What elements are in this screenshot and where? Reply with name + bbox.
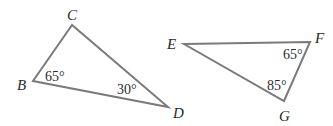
triangles-diagram: C B D 65° 30° E F G 65° 85°	[0, 0, 333, 126]
vertex-label-f: F	[314, 30, 325, 46]
triangle-efg: E F G 65° 85°	[166, 30, 325, 124]
angle-label-d: 30°	[117, 82, 137, 97]
vertex-label-b: B	[17, 77, 26, 93]
angle-label-f: 65°	[283, 47, 303, 62]
angle-label-b: 65°	[45, 69, 65, 84]
vertex-label-d: D	[172, 105, 184, 121]
vertex-label-c: C	[67, 7, 78, 23]
vertex-label-e: E	[166, 36, 176, 52]
vertex-label-g: G	[279, 108, 290, 124]
triangle-bcd: C B D 65° 30°	[17, 7, 184, 121]
triangle-bcd-outline	[33, 25, 168, 107]
angle-label-g: 85°	[267, 78, 287, 93]
